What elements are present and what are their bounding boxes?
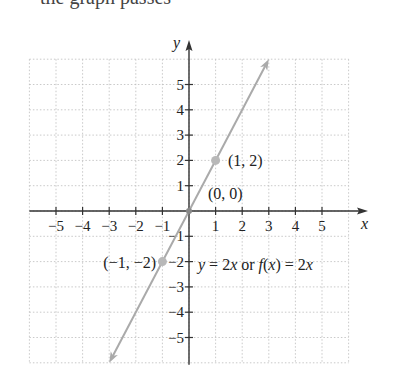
x-tick-label: −5 — [48, 218, 64, 234]
equation-label: y = 2x or f(x) = 2x — [196, 256, 313, 274]
x-tick-label: 3 — [265, 218, 273, 234]
y-tick-label: −5 — [168, 330, 184, 346]
point — [158, 257, 167, 266]
x-tick-label: 5 — [318, 218, 326, 234]
y-tick-label: −3 — [168, 279, 184, 295]
labels: xy(−1, −2)(0, 0)(1, 2)y = 2x or f(x) = 2… — [103, 34, 368, 274]
x-tick-label: −4 — [75, 218, 91, 234]
y-axis-label: y — [171, 34, 181, 52]
x-tick-label: 1 — [212, 218, 220, 234]
point-label: (1, 2) — [228, 152, 263, 170]
x-tick-label: −2 — [128, 218, 144, 234]
y-tick-label: 4 — [177, 102, 185, 118]
y-tick-label: −4 — [168, 304, 184, 320]
coordinate-plane: −5−4−3−2−112345−5−4−3−2−112345 xy(−1, −2… — [0, 0, 400, 390]
y-tick-label: 5 — [177, 77, 185, 93]
axes — [29, 40, 368, 365]
point-label: (0, 0) — [208, 185, 243, 203]
point-origin — [186, 208, 192, 214]
x-tick-label: 4 — [292, 218, 300, 234]
x-tick-label: −3 — [101, 218, 117, 234]
x-axis-label: x — [360, 215, 368, 232]
y-tick-label: −2 — [168, 254, 184, 270]
point — [211, 156, 220, 165]
y-tick-label: 3 — [177, 127, 185, 143]
point-label: (−1, −2) — [103, 254, 156, 272]
y-tick-label: 2 — [177, 152, 185, 168]
x-tick-label: 2 — [238, 218, 246, 234]
y-tick-label: 1 — [177, 178, 185, 194]
